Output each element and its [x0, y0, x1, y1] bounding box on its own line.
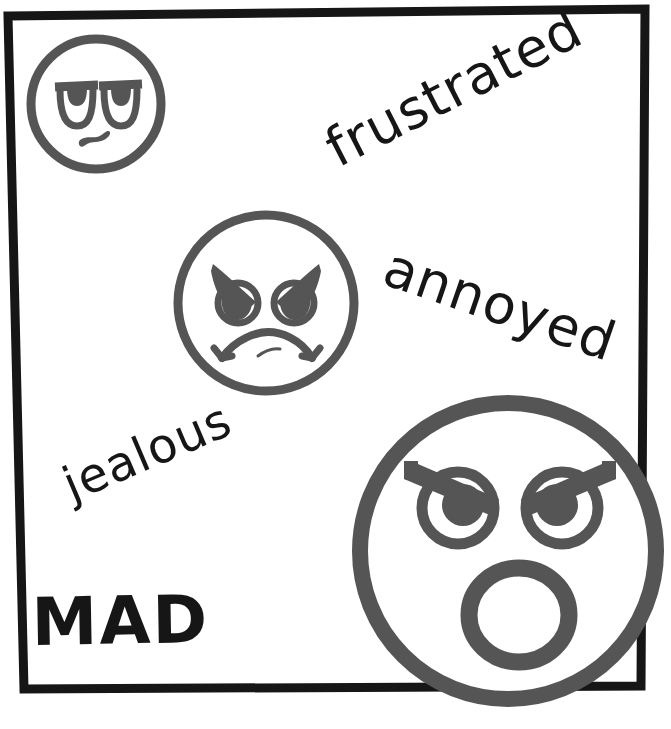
face-medium-angry	[178, 215, 354, 391]
face-large-left-eyebrow-cap	[404, 461, 418, 482]
face-large-right-eyebrow-cap	[602, 461, 616, 482]
label-jealous: jealous	[53, 391, 239, 512]
poster-canvas: frustrated annoyed jealous MAD	[0, 0, 671, 729]
mad-emotion-poster: frustrated annoyed jealous MAD	[0, 0, 671, 729]
face-medium-outline	[178, 215, 354, 391]
label-mad: MAD	[31, 581, 210, 661]
face-small-left-eyelid	[55, 85, 98, 87]
label-annoyed: annoyed	[376, 236, 624, 374]
face-small-outline	[31, 39, 161, 169]
face-large-mouth	[469, 568, 569, 662]
face-small-right-eyelid	[99, 84, 142, 86]
label-frustrated: frustrated	[315, 0, 592, 180]
face-small-unamused	[31, 39, 161, 169]
face-large-shouting	[360, 403, 656, 699]
